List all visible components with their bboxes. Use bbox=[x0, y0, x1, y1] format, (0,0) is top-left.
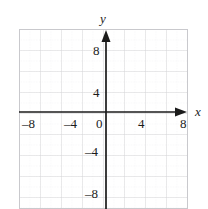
x-tick-label-4: 4 bbox=[138, 117, 145, 130]
x-tick-label-minus4: –4 bbox=[64, 117, 77, 130]
y-tick-label-minus8: –8 bbox=[85, 187, 98, 200]
x-tick-label-minus8: –8 bbox=[22, 117, 35, 130]
clipped-top-text: ˚ ˚ bbox=[0, 0, 208, 4]
plot-area bbox=[19, 29, 188, 209]
x-tick-label-8: 8 bbox=[180, 117, 187, 130]
y-tick-label-minus4: –4 bbox=[85, 145, 98, 158]
clipped-text-fragment-right: ˚ bbox=[136, 0, 141, 4]
y-tick-label-4: 4 bbox=[93, 86, 100, 99]
coordinate-plane-figure: ˚ ˚ y x bbox=[0, 0, 208, 209]
y-tick-label-8: 8 bbox=[93, 44, 100, 57]
clipped-text-fragment-left: ˚ bbox=[58, 0, 63, 4]
origin-label: 0 bbox=[96, 117, 103, 130]
x-axis-label: x bbox=[195, 105, 201, 118]
y-axis-label: y bbox=[100, 12, 106, 25]
